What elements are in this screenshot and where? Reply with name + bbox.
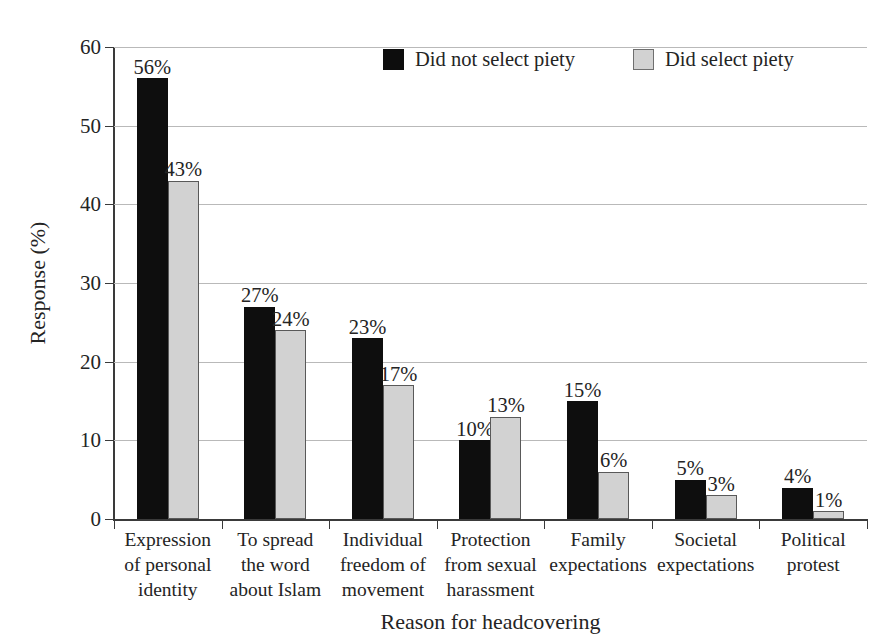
bar-value-label: 27% <box>241 285 279 306</box>
x-axis-label-line: Family <box>544 527 652 552</box>
bar-value-label: 6% <box>600 450 627 471</box>
x-axis-category-labels: Expressionof personalidentityTo spreadth… <box>114 527 867 603</box>
plot-area: 0102030405060 56%43%27%24%23%17%10%13%15… <box>114 47 867 519</box>
y-tick-label: 60 <box>80 37 101 58</box>
bar: 17% <box>383 385 414 519</box>
y-tick-mark <box>105 126 114 127</box>
bar: 1% <box>813 511 844 519</box>
bar-value-label: 4% <box>784 466 811 487</box>
x-axis-category-label: To spreadthe wordabout Islam <box>222 527 330 602</box>
bar-group: 5%3% <box>652 47 760 519</box>
x-axis-label-line: Political <box>759 527 867 552</box>
x-axis-label-line: about Islam <box>222 577 330 602</box>
x-axis-label-line: expectations <box>544 552 652 577</box>
y-tick-label: 30 <box>80 273 101 294</box>
bar-value-label: 15% <box>564 380 602 401</box>
bar-group: 10%13% <box>437 47 545 519</box>
bar: 15% <box>567 401 598 519</box>
y-tick-mark <box>105 362 114 363</box>
x-axis-category-label: Protectionfrom sexualharassment <box>437 527 545 602</box>
x-axis-category-label: Societalexpectations <box>652 527 760 577</box>
bar-value-label: 3% <box>707 474 734 495</box>
y-tick-label: 50 <box>80 115 101 136</box>
y-tick-mark <box>105 204 114 205</box>
bar: 3% <box>706 495 737 519</box>
bar-value-label: 43% <box>164 159 202 180</box>
bar: 56% <box>137 78 168 519</box>
x-axis-line <box>113 519 868 521</box>
y-tick-mark <box>105 47 114 48</box>
bar: 13% <box>490 417 521 519</box>
bar: 27% <box>244 307 275 519</box>
x-axis-label-line: protest <box>759 552 867 577</box>
bar-value-label: 23% <box>349 317 387 338</box>
x-axis-category-label: Expressionof personalidentity <box>114 527 222 602</box>
x-axis-label-line: from sexual <box>437 552 545 577</box>
x-axis-category-label: Familyexpectations <box>544 527 652 577</box>
x-axis-label-line: harassment <box>437 577 545 602</box>
bar: 23% <box>352 338 383 519</box>
x-axis-label-line: expectations <box>652 552 760 577</box>
bar-value-label: 5% <box>676 458 703 479</box>
y-tick-mark <box>105 283 114 284</box>
bar: 4% <box>782 488 813 519</box>
x-axis-label-line: Societal <box>652 527 760 552</box>
x-axis-label-line: freedom of <box>329 552 437 577</box>
bar-value-label: 24% <box>272 309 310 330</box>
bar: 10% <box>459 440 490 519</box>
x-axis-label-line: movement <box>329 577 437 602</box>
y-tick-mark <box>105 440 114 441</box>
x-axis-category-label: Individualfreedom ofmovement <box>329 527 437 602</box>
y-tick-label: 10 <box>80 430 101 451</box>
x-axis-label-line: Protection <box>437 527 545 552</box>
x-axis-label-line: of personal <box>114 552 222 577</box>
bar-value-label: 10% <box>456 419 494 440</box>
x-axis-title: Reason for headcovering <box>114 609 867 635</box>
x-axis-label-line: identity <box>114 577 222 602</box>
y-axis-title: Response (%) <box>22 47 54 519</box>
x-axis-label-line: To spread <box>222 527 330 552</box>
x-axis-label-line: Expression <box>114 527 222 552</box>
x-axis-label-line: Individual <box>329 527 437 552</box>
bar-chart-figure: Did not select piety Did select piety Re… <box>0 0 885 641</box>
bar-value-label: 56% <box>133 57 171 78</box>
bar-group: 15%6% <box>544 47 652 519</box>
bar-value-label: 1% <box>815 490 842 511</box>
bar-value-label: 13% <box>487 395 525 416</box>
y-tick-label: 20 <box>80 351 101 372</box>
bar-group: 27%24% <box>222 47 330 519</box>
x-axis-label-line: the word <box>222 552 330 577</box>
bar-group: 23%17% <box>329 47 437 519</box>
bar: 24% <box>275 330 306 519</box>
y-tick-mark <box>105 519 114 520</box>
bar: 6% <box>598 472 629 519</box>
x-axis-category-label: Politicalprotest <box>759 527 867 577</box>
y-tick-label: 40 <box>80 194 101 215</box>
x-tick-mark <box>867 519 868 529</box>
bar: 5% <box>675 480 706 519</box>
bar-group: 4%1% <box>759 47 867 519</box>
bar: 43% <box>168 181 199 519</box>
bar-value-label: 17% <box>380 364 418 385</box>
y-tick-label: 0 <box>91 509 102 530</box>
bar-group: 56%43% <box>114 47 222 519</box>
